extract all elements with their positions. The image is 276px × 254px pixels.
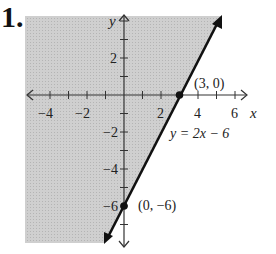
- x-tick-label-2: 2: [157, 106, 164, 121]
- x-tick-label-neg2: −2: [75, 106, 90, 121]
- point-x-intercept: [176, 91, 184, 99]
- x-tick-label-neg4: −4: [38, 106, 53, 121]
- y-tick-label-2: 2: [110, 51, 117, 66]
- inequality-graph: y x −4 −2 2 4 6 2 −2 −4 −6 (3, 0) (0, −6…: [0, 0, 276, 254]
- x-tick-label-6: 6: [231, 106, 238, 121]
- y-axis-label: y: [107, 13, 116, 29]
- x-tick-label-4: 4: [194, 106, 201, 121]
- point-y-intercept: [120, 202, 128, 210]
- y-tick-label-neg4: −4: [103, 162, 118, 177]
- y-tick-label-neg2: −2: [103, 125, 118, 140]
- point-label-y-intercept: (0, −6): [138, 198, 177, 214]
- equation-label: y = 2x − 6: [168, 126, 229, 141]
- point-label-x-intercept: (3, 0): [194, 76, 225, 92]
- x-axis-label: x: [249, 105, 257, 121]
- y-tick-label-neg6: −6: [103, 199, 118, 214]
